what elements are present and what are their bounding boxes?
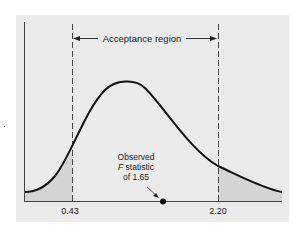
observed-label-line3: of 1.65 — [123, 172, 149, 182]
f-distribution-chart: Acceptance region Observed F statistic o… — [0, 0, 303, 227]
statistic-text: statistic — [123, 162, 154, 172]
tick-label-right: 2.20 — [209, 206, 227, 216]
observed-label-line1: Observed — [118, 152, 155, 162]
stray-mark — [4, 126, 5, 127]
observed-statistic-dot — [160, 199, 166, 205]
tick-label-left: 0.43 — [61, 206, 79, 216]
acceptance-region-label: Acceptance region — [103, 33, 182, 44]
observed-label-line2: F statistic — [118, 162, 155, 172]
